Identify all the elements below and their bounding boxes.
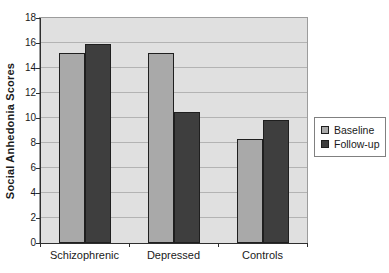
legend-entry-baseline: Baseline	[321, 123, 381, 137]
bar-follow-up-controls	[263, 120, 289, 243]
y-tick-mark-12	[36, 93, 40, 94]
x-tick-mark-3	[307, 243, 308, 247]
legend: BaselineFollow-up	[314, 117, 386, 157]
x-axis-line	[40, 243, 308, 244]
y-tick-label-8: 8	[14, 137, 36, 149]
x-tick-mark-1	[129, 243, 130, 247]
y-tick-label-6: 6	[14, 162, 36, 174]
y-tick-label-16: 16	[14, 37, 36, 49]
y-tick-label-12: 12	[14, 87, 36, 99]
bar-chart-figure: Social Anhedonia Scores 024681012141618S…	[0, 0, 389, 273]
y-tick-mark-4	[36, 193, 40, 194]
legend-swatch-icon	[321, 140, 329, 148]
y-tick-mark-14	[36, 68, 40, 69]
bar-follow-up-depressed	[174, 112, 200, 243]
bar-follow-up-schizophrenic	[85, 44, 111, 243]
y-tick-mark-2	[36, 218, 40, 219]
y-tick-label-0: 0	[14, 237, 36, 249]
x-category-label-depressed: Depressed	[129, 249, 218, 262]
x-tick-mark-0	[40, 243, 41, 247]
y-tick-label-4: 4	[14, 187, 36, 199]
x-category-label-controls: Controls	[218, 249, 307, 262]
bar-baseline-schizophrenic	[59, 53, 85, 243]
gridline-y-16	[40, 42, 307, 43]
y-tick-mark-18	[36, 18, 40, 19]
y-tick-label-2: 2	[14, 212, 36, 224]
legend-entry-follow-up: Follow-up	[321, 137, 381, 151]
y-tick-label-18: 18	[14, 12, 36, 24]
x-tick-mark-2	[218, 243, 219, 247]
y-axis-title: Social Anhedonia Scores	[4, 19, 18, 244]
legend-label: Follow-up	[334, 138, 380, 150]
legend-label: Baseline	[334, 124, 374, 136]
y-tick-label-10: 10	[14, 112, 36, 124]
y-tick-mark-10	[36, 118, 40, 119]
y-tick-mark-8	[36, 143, 40, 144]
bar-baseline-depressed	[148, 53, 174, 243]
y-axis-line	[40, 18, 41, 244]
y-tick-mark-6	[36, 168, 40, 169]
x-category-label-schizophrenic: Schizophrenic	[40, 249, 129, 262]
bar-baseline-controls	[237, 139, 263, 243]
y-tick-label-14: 14	[14, 62, 36, 74]
y-tick-mark-16	[36, 43, 40, 44]
legend-swatch-icon	[321, 126, 329, 134]
plot-area	[40, 18, 307, 243]
